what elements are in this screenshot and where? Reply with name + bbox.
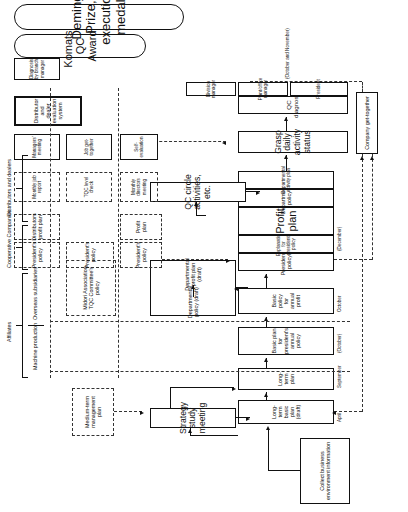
node-medium-term: Medium-term management plan	[72, 388, 114, 436]
arrow-head	[246, 417, 250, 421]
arrow-head	[232, 387, 236, 391]
group-label-cooperative-companies: Cooperative Companies	[6, 210, 12, 268]
month-december: (December)	[337, 227, 342, 251]
node-company-get-together: Managers' meeting	[14, 134, 60, 160]
node-label: Distributor and dealer evaluation system	[32, 97, 64, 126]
connector-line	[196, 215, 206, 216]
arrow-head	[360, 156, 364, 160]
node-self-evaluation: Monthly job report	[14, 172, 60, 202]
group-bracket-cooperative	[22, 225, 28, 226]
diagram-canvas: Collect business environment information…	[0, 0, 408, 512]
connector-line	[268, 429, 269, 471]
connector-line	[170, 388, 171, 408]
node-diagnosis-branch: Diagnosis by branch manager	[14, 58, 60, 80]
dashed-connector	[250, 81, 362, 82]
arrow-head	[191, 285, 195, 289]
node-label: Division manager	[205, 78, 217, 100]
node-managers-meeting: Job get-together	[66, 134, 112, 160]
dashed-separator	[50, 371, 350, 372]
node-pres-policy-a: President's policy	[120, 242, 162, 268]
arrow-head	[188, 429, 192, 433]
node-label: Self-evaluation	[133, 135, 145, 160]
dashed-separator	[50, 88, 51, 378]
node-label: Basic policy for annual profit	[270, 289, 302, 313]
dashed-separator	[118, 88, 119, 378]
node-label: Managers' meeting	[31, 134, 43, 159]
node-collect-info: Collect business environment information	[300, 438, 350, 504]
arrow-head	[266, 426, 270, 430]
node-label: President's policy	[134, 240, 148, 271]
node-pres-policy-b: President's policy	[66, 242, 114, 268]
arrow-head	[226, 259, 230, 263]
node-label: Monthly job report	[31, 173, 43, 201]
node-monthly-job-report: TQC level check	[66, 172, 112, 202]
node-label: Monthly directors meeting	[130, 173, 147, 201]
node-grasp-daily: Grasp daily activity status	[238, 131, 348, 153]
node-label: TQC level check	[83, 173, 95, 201]
group-bracket-cooperative	[22, 226, 23, 270]
group-bracket-distributors	[16, 188, 22, 189]
arrow-head	[370, 156, 374, 160]
node-dept-profit-draft: Departmental profit plan (draft)	[152, 261, 234, 288]
node-label: Plant/office manager	[257, 76, 269, 103]
node-qc-division: Division manager	[186, 82, 236, 96]
month-april: April	[337, 413, 342, 422]
month-october: October	[337, 296, 342, 312]
node-label: Job get-together	[83, 135, 95, 159]
node-long-term-basic: Long-term basic plan (draft)	[238, 400, 334, 424]
node-label: Distributors profit plan	[30, 211, 44, 242]
node-label: Grasp daily activity status	[273, 127, 314, 157]
dashed-connector	[334, 259, 372, 260]
node-qc-circle: QC circle activities, etc.	[150, 182, 246, 202]
node-distributors-profit: Distributors profit plan	[14, 214, 60, 240]
rotated-diagram-layer: Collect business environment information…	[0, 0, 408, 512]
dashed-connector	[362, 154, 363, 412]
connector-line	[190, 435, 238, 436]
node-qc-president: President	[290, 82, 348, 96]
node-distributor-eval: Distributor and dealer evaluation system	[14, 96, 82, 126]
group-bracket-affiliates	[16, 325, 22, 326]
group-bracket-affiliates	[22, 273, 28, 274]
node-label: Company get-together	[363, 94, 371, 152]
dashed-connector	[114, 411, 142, 412]
connector-line	[170, 387, 234, 388]
arrow-head	[256, 191, 260, 195]
node-explanation-policy: Explanation for president's policy	[238, 235, 334, 253]
group-bracket-distributors	[22, 221, 28, 222]
node-departmental-activity-plan: Departmental activity plan	[238, 171, 334, 189]
node-label: Long-term basic plan (draft)	[270, 401, 302, 423]
node-label: President's policy	[30, 240, 44, 271]
group-bracket-affiliates	[22, 377, 28, 378]
dashed-connector	[162, 259, 228, 260]
node-label: Profit plan	[134, 215, 148, 239]
node-monthly-directors: Company get-together	[356, 92, 378, 154]
node-label: Long-term plan	[276, 369, 296, 389]
month-september: September	[337, 366, 342, 388]
node-basic-plan-pres: Basic plan for president's annual policy	[238, 327, 334, 355]
dashed-separator	[50, 321, 350, 322]
node-label: Deming Prize, execution medal	[69, 0, 129, 47]
qc-diagnosis-months: (October and November)	[285, 28, 290, 79]
node-qc-plant-office: Plant/office manager	[238, 82, 288, 96]
arrow-head	[332, 411, 336, 415]
node-label: Medium-term management plan	[83, 389, 103, 435]
group-label-distributors-dealers: Distributors and dealers	[6, 159, 12, 216]
arrow-head	[234, 287, 238, 291]
arrow-head	[264, 274, 268, 278]
node-label: Basic plan for president's annual policy	[270, 326, 302, 356]
node-basic-policy-profit: Basic policy for annual profit	[238, 288, 334, 314]
node-qc-diagnosis: QC diagnosis	[238, 96, 348, 114]
arrow-head	[264, 358, 268, 362]
node-tqc-level-check: Monthly directors meeting	[120, 172, 158, 202]
node-label: QC circle activities, etc.	[183, 172, 214, 211]
node-label: Collect business environment information	[318, 439, 332, 503]
dashed-connector	[372, 154, 373, 260]
node-pres-policy-c: President's policy	[14, 242, 60, 268]
node-label: Diagnosis by branch manager	[28, 57, 45, 81]
node-strategy-study: Strategy study meeting	[150, 408, 236, 428]
node-deming-prize: Deming Prize, execution medal	[14, 4, 184, 30]
node-profit-plan-b: Profit plan	[120, 214, 162, 240]
node-job-get-together: Self-evaluation	[120, 134, 158, 160]
arrow-head	[194, 202, 198, 206]
dashed-connector	[334, 411, 362, 412]
